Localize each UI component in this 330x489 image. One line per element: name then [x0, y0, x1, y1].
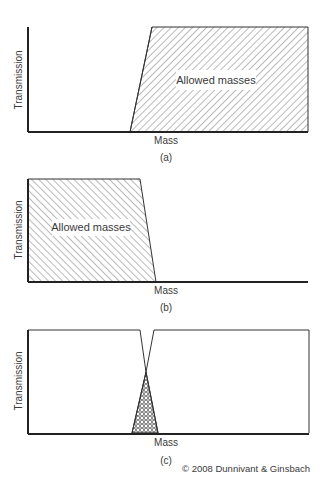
y-label-c: Transmission	[13, 351, 24, 410]
high-pass-curve-c	[146, 330, 309, 433]
panel-b: Allowed masses Transmission Mass (b)	[13, 179, 308, 313]
figure-canvas: Allowed masses Transmission Mass (a) All…	[0, 0, 330, 489]
caption-c: (c)	[160, 455, 172, 466]
x-label-a: Mass	[154, 135, 178, 146]
region-label-a: Allowed masses	[176, 74, 256, 86]
panel-a: Allowed masses Transmission Mass (a)	[13, 27, 308, 163]
low-pass-curve-c	[28, 330, 146, 433]
caption-b: (b)	[160, 302, 172, 313]
caption-a: (a)	[160, 152, 172, 163]
y-label-a: Transmission	[13, 50, 24, 109]
panel-c: Transmission Mass (c)	[13, 330, 309, 466]
x-label-c: Mass	[154, 437, 178, 448]
copyright: © 2008 Dunnivant & Ginsbach	[182, 463, 310, 474]
overlap-region-c	[132, 372, 158, 433]
region-label-b: Allowed masses	[51, 221, 131, 233]
x-label-b: Mass	[154, 285, 178, 296]
y-label-b: Transmission	[13, 200, 24, 259]
